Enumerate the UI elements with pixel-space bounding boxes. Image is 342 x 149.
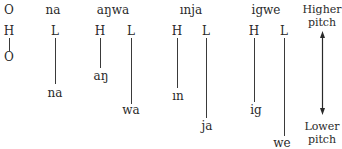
lower-pitch-line1: Lower — [304, 121, 339, 132]
lower-pitch-line2: pitch — [308, 134, 336, 145]
